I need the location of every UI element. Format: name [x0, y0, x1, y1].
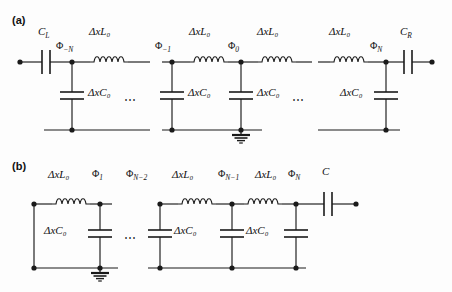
- label-phi-1: Φ1: [92, 169, 103, 182]
- label-phi-minus-N: Φ−N: [56, 41, 73, 54]
- terminal-dot-a-left: [17, 59, 22, 64]
- node-dot-b-left-bottom: [31, 265, 36, 270]
- label-phi-N-b: ΦN: [288, 169, 300, 182]
- label-capacitor-a-3: ΔxC₀: [257, 87, 280, 98]
- node-dot-phi-minus-1: [169, 59, 174, 64]
- label-capacitor-a-4: ΔxC₀: [340, 87, 363, 98]
- label-capacitor-b-3: ΔxC₀: [246, 225, 269, 236]
- node-dot-a-1-bottom: [69, 127, 74, 132]
- node-dot-phi-0: [238, 59, 243, 64]
- node-dot-a-3-bottom: [238, 127, 243, 132]
- label-inductor-b-1: ΔxL₀: [48, 169, 69, 180]
- node-dot-b-3-bottom: [229, 265, 234, 270]
- inductor-a-2: [190, 57, 228, 62]
- node-dot-phi-N-b: [293, 201, 298, 206]
- label-inductor-a-1: ΔxL₀: [89, 26, 110, 37]
- node-dot-phi-1: [97, 201, 102, 206]
- label-phi-0: Φ0: [228, 41, 239, 54]
- node-dot-phi-N-a: [383, 59, 388, 64]
- inductor-a-1: [90, 57, 128, 62]
- label-CR: CR: [400, 26, 412, 40]
- node-dot-phi-N-minus-1: [229, 201, 234, 206]
- node-dot-a-2-bottom: [169, 127, 174, 132]
- label-capacitor-b-1: ΔxC₀: [44, 225, 67, 236]
- node-dot-b-1-bottom: [97, 265, 102, 270]
- inductor-b-3: [244, 199, 282, 204]
- inductor-b-2: [178, 199, 216, 204]
- ellipsis-b-1: ⋯: [124, 231, 138, 246]
- label-inductor-b-3: ΔxL₀: [255, 169, 276, 180]
- inductor-a-4: [330, 57, 368, 62]
- label-inductor-a-2: ΔxL₀: [189, 26, 210, 37]
- figure-canvas: (a) (b): [0, 0, 452, 292]
- ellipsis-a-1: ⋯: [124, 93, 138, 108]
- node-dot-phi-N-minus-2: [157, 201, 162, 206]
- inductor-b-1: [52, 199, 90, 204]
- inductor-a-3: [258, 57, 296, 62]
- label-phi-N-a: ΦN: [370, 41, 382, 54]
- label-phi-minus-1: Φ−1: [155, 41, 171, 54]
- label-inductor-b-2: ΔxL₀: [172, 169, 193, 180]
- label-C: C: [322, 166, 329, 177]
- label-inductor-a-4: ΔxL₀: [329, 26, 350, 37]
- label-capacitor-a-2: ΔxC₀: [188, 87, 211, 98]
- ellipsis-a-2: ⋯: [292, 93, 306, 108]
- terminal-dot-a-right: [429, 59, 434, 64]
- terminal-dot-b-right: [353, 201, 358, 206]
- label-inductor-a-3: ΔxL₀: [257, 26, 278, 37]
- label-CL: CL: [38, 26, 50, 40]
- label-phi-N-minus-2: ΦN−2: [126, 169, 147, 182]
- node-dot-phi-minus-N: [69, 59, 74, 64]
- label-capacitor-a-1: ΔxC₀: [88, 87, 111, 98]
- node-dot-b-2-bottom: [157, 265, 162, 270]
- node-dot-b-left-top: [31, 201, 36, 206]
- node-dot-a-4-bottom: [383, 127, 388, 132]
- node-dot-b-4-bottom: [293, 265, 298, 270]
- label-capacitor-b-2: ΔxC₀: [174, 225, 197, 236]
- label-phi-N-minus-1: ΦN−1: [218, 169, 239, 182]
